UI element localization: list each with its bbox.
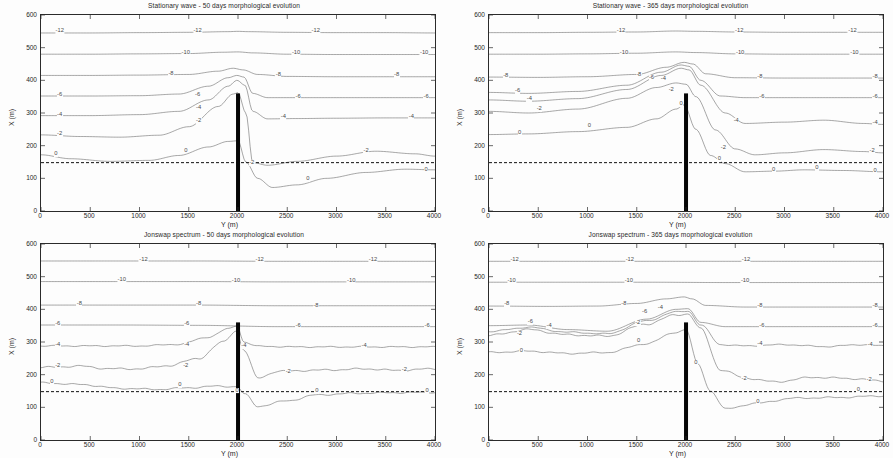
contour-label: -2 [536,106,542,112]
contour-label: -4 [57,112,63,118]
y-tick-label: 600 [461,11,485,18]
contour-label: 0 [54,151,58,157]
contour-label: -2 [55,364,61,370]
contour-label: -4 [867,342,873,348]
contour-label: -6 [642,309,648,315]
contour-label: 0 [424,167,428,173]
contour-line--10 [489,52,883,54]
x-tick-label: 4000 [427,441,441,448]
contour-label: -2 [196,118,202,124]
groyne-structure [684,93,688,211]
contour-label: -2 [866,377,872,383]
contour-label: -12 [193,28,202,34]
contour-label: 0 [873,169,877,175]
contour-label: -4 [280,114,286,120]
contour-line--6 [489,65,883,98]
contour-label: -10 [624,278,633,284]
contour-line--8 [489,297,883,307]
contour-label: -10 [619,50,628,56]
contour-label: -6 [872,94,878,100]
y-tick-label: 0 [13,436,37,443]
contour-label: -4 [657,305,663,311]
contour-label: -8 [636,72,642,78]
x-tick-label: 1000 [579,212,593,219]
contour-label: 0 [519,348,523,354]
x-tick-label: 0 [486,212,490,219]
contour-label: -2 [363,148,369,154]
figure-canvas: Stationary wave - 50 days morphological … [0,0,893,458]
contour-label: -4 [241,343,247,349]
contour-canvas [41,15,435,211]
x-tick-label: 3500 [378,212,392,219]
y-tick-label: 300 [13,109,37,116]
contour-label: -12 [848,28,857,34]
x-tick-label: 1500 [181,441,195,448]
contour-label: -2 [517,331,523,337]
y-tick-label: 500 [13,272,37,279]
y-axis-label: X (m) [456,338,463,355]
y-tick-label: 400 [13,76,37,83]
contour-label: 0 [637,338,641,344]
y-tick-label: 400 [461,305,485,312]
x-tick-label: 1000 [131,441,145,448]
contour-label: -2 [249,160,255,166]
contour-canvas [41,244,435,440]
y-tick-label: 200 [461,370,485,377]
contour-line--12 [489,31,883,33]
contour-label: -4 [660,76,666,82]
contour-label: 0 [50,379,54,385]
contour-label: -10 [117,277,126,283]
x-tick-label: 4000 [875,441,889,448]
contour-label: 0 [815,165,819,171]
x-tick-label: 500 [532,212,543,219]
x-tick-label: 3500 [826,212,840,219]
y-tick-label: 600 [13,11,37,18]
contour-label: -4 [872,121,878,127]
contour-label: 0 [694,360,698,366]
contour-label: -10 [850,50,859,56]
panel-jonswap-365: Jonswap spectrum - 365 days moprhologica… [448,229,893,458]
contour-label: -12 [741,257,750,263]
y-tick-label: 0 [461,207,485,214]
x-tick-label: 4000 [427,212,441,219]
contour-label: -2 [741,376,747,382]
y-tick-label: 200 [461,141,485,148]
x-tick-label: 2500 [279,441,293,448]
contour-label: -8 [504,301,510,307]
contour-label: -4 [526,96,532,102]
contour-label: -10 [292,50,301,56]
contour-label: -12 [735,28,744,34]
x-tick-label: 2000 [230,441,244,448]
y-tick-label: 600 [461,240,485,247]
x-tick-label: 3000 [776,212,790,219]
y-tick-label: 100 [13,403,37,410]
y-tick-label: 500 [461,43,485,50]
contour-line--12 [41,31,435,33]
contour-label: -8 [757,303,763,309]
contour-label: -10 [740,278,749,284]
contour-label: -2 [183,364,189,370]
groyne-structure [684,322,688,440]
contour-label: -6 [57,92,63,98]
contour-label: 0 [235,388,239,394]
contour-label: -6 [184,321,190,327]
contour-label: -10 [181,50,190,56]
y-axis-label: X (m) [8,109,15,126]
contour-label: -4 [546,323,552,329]
contour-label: -4 [55,342,61,348]
contour-label: -6 [195,92,201,98]
contour-label: -8 [313,303,319,309]
contour-label: -8 [757,74,763,80]
x-tick-label: 2500 [279,212,293,219]
contour-label: -12 [55,28,64,34]
x-tick-label: 500 [84,212,95,219]
contour-label: -4 [733,118,739,124]
x-tick-label: 0 [486,441,490,448]
contour-label: -2 [401,367,407,373]
contour-label: 0 [717,156,721,162]
x-tick-label: 2000 [678,441,692,448]
panel-title: Stationary wave - 50 days morphological … [0,2,448,9]
x-tick-label: 1500 [629,441,643,448]
plot-area [40,243,436,441]
contour-label: 0 [856,387,860,393]
